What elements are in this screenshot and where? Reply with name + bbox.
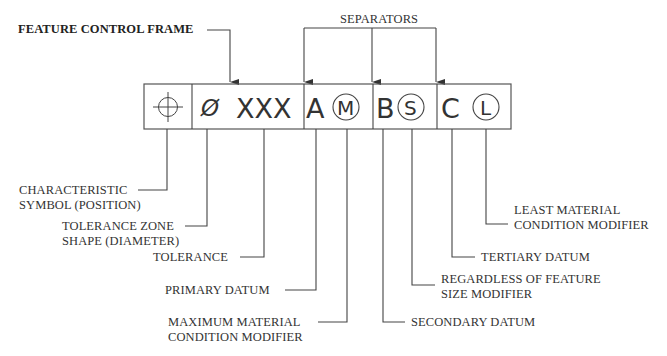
callout-characteristic: CHARACTERISTIC SYMBOL (POSITION) [19,183,141,213]
leader-tertiary-datum [452,129,475,257]
leader-characteristic [138,129,167,190]
mmc-letter: M [337,96,354,120]
callout-mmc: MAXIMUM MATERIAL CONDITION MODIFIER [168,315,303,345]
leader-rfs [412,129,435,285]
callout-tolerance-zone: TOLERANCE ZONE SHAPE (DIAMETER) [62,219,179,249]
primary-datum-letter: A [306,93,325,124]
callout-primary-datum: PRIMARY DATUM [165,283,270,298]
feature-control-frame-diagram: Ø XXX A M B S C L [0,0,667,356]
lmc-letter: L [480,96,492,120]
frame-pointer-arrow [207,30,230,82]
separators-label: SEPARATORS [340,12,418,27]
secondary-datum-letter: B [376,93,395,124]
tolerance-value: XXX [236,93,292,124]
leader-lmc [486,129,508,224]
callout-lmc: LEAST MATERIAL CONDITION MODIFIER [514,203,649,233]
rfs-letter: S [404,96,417,120]
callout-secondary-datum: SECONDARY DATUM [411,315,535,330]
feature-control-frame-title: FEATURE CONTROL FRAME [18,22,194,37]
callout-tolerance: TOLERANCE [153,250,228,265]
leader-primary-datum [285,129,316,290]
callout-tertiary-datum: TERTIARY DATUM [481,250,590,265]
leader-secondary-datum [383,129,405,322]
callout-rfs: REGARDLESS OF FEATURE SIZE MODIFIER [441,272,601,302]
tertiary-datum-letter: C [441,93,460,124]
position-icon [153,92,183,122]
leader-mmc [318,129,347,322]
diameter-symbol: Ø [200,95,220,121]
leader-tolerance [240,129,264,257]
leader-tolerance-zone [185,129,207,226]
